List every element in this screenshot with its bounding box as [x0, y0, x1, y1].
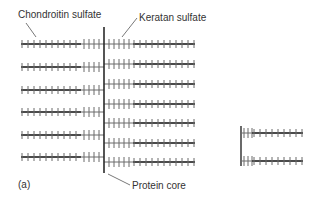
chondroitin-sulfate-label: Chondroitin sulfate — [18, 10, 101, 20]
protein-core-label: Protein core — [132, 181, 186, 191]
protein-core-leader-line — [108, 174, 130, 185]
chondroitin-leader-line — [26, 23, 36, 37]
keratan-sulfate-label: Keratan sulfate — [139, 13, 206, 23]
panel-label: (a) — [18, 180, 30, 190]
keratan-leader-line — [122, 18, 137, 37]
proteoglycan-diagram — [0, 0, 321, 203]
